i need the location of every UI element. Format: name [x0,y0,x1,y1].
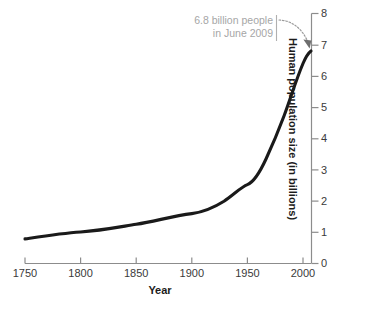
y-tick-label-5: 5 [321,101,337,113]
y-tick-label-1: 1 [321,226,337,238]
annotation-callout: 6.8 billion people in June 2009 [160,14,273,40]
y-tick-label-3: 3 [321,164,337,176]
y-tick-label-4: 4 [321,132,337,144]
annotation-line-1: 6.8 billion people [160,14,273,27]
x-tick-label-1900: 1900 [172,267,212,279]
y-tick-label-8: 8 [321,7,337,19]
x-axis-title: Year [0,284,320,296]
x-tick-label-1950: 1950 [227,267,267,279]
population-growth-chart: 1750 1800 1850 1900 1950 2000 0 1 2 3 4 … [0,0,365,311]
annotation-line-2: in June 2009 [160,27,273,40]
y-tick-label-2: 2 [321,195,337,207]
x-tick-label-1850: 1850 [116,267,156,279]
population-line-series [25,51,311,239]
y-axis-title: Human population size (in billions) [287,38,299,238]
x-tick-label-2000: 2000 [283,267,323,279]
x-tick-label-1800: 1800 [61,267,101,279]
chart-plot-area [0,0,365,311]
annotation-arrowhead-icon [303,40,311,49]
y-tick-label-0: 0 [321,257,337,269]
y-tick-label-7: 7 [321,39,337,51]
x-tick-label-1750: 1750 [5,267,45,279]
x-axis-ticks [25,258,303,264]
y-tick-label-6: 6 [321,70,337,82]
